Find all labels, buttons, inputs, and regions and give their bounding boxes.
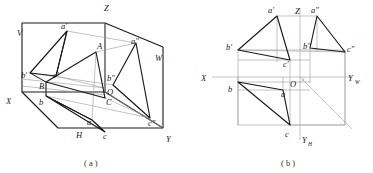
pt-c-prime-label-b: c': [283, 59, 289, 69]
pt-A-label: A: [96, 41, 103, 51]
caption-b: ( b ): [281, 158, 295, 168]
aux-bc-line: [46, 96, 150, 118]
pt-c-label-b: c: [285, 129, 289, 139]
captions-group: ( a ) ( b ): [84, 158, 295, 168]
pt-b-label-a: b: [39, 97, 43, 107]
tri-abc: [46, 96, 105, 132]
pt-a-prime-label-b: a': [268, 5, 274, 15]
plane-w-label: W: [155, 53, 163, 63]
axis-yw-subscript: W: [355, 79, 360, 85]
svg-text:Y: Y: [348, 73, 354, 83]
pt-c-label-a: c: [103, 131, 107, 141]
pt-a-label-b: a: [281, 89, 285, 99]
pt-b-label-b: b: [228, 84, 232, 94]
tri-a2b2c2: [113, 43, 150, 118]
origin-o-a-label: O: [107, 87, 113, 97]
pt-c-prime-label-a: c': [53, 70, 59, 80]
triangle-profile-projection-a: [113, 43, 150, 118]
panel-b-group: Z X O Y W Y H a' a" b' b" c' c" b a c: [200, 5, 360, 147]
triangle-profile-view-b: [310, 16, 345, 52]
axis-z-a-label: Z: [104, 3, 109, 13]
technical-drawing-svg: Z X Y V W H O a' b' c' A B C a b c a" b"…: [0, 0, 373, 173]
panel-a-group: Z X Y V W H O a' b' c' A B C a b c a" b"…: [5, 3, 172, 144]
tri-a1b1c1-b: [238, 16, 290, 60]
axis-yw-b-label: Y W: [348, 73, 360, 85]
origin-o-b-label: O: [290, 79, 296, 89]
caption-a: ( a ): [84, 158, 98, 168]
pt-a-label-a: a: [87, 117, 91, 127]
miter-45-line: [300, 77, 352, 129]
aux-C-to-c2: [105, 98, 150, 118]
proj-A-vertical: [92, 52, 96, 120]
axis-x-b-label: X: [200, 73, 207, 83]
pt-B-label: B: [39, 81, 44, 91]
axis-yh-b-label: Y H: [302, 135, 313, 147]
pt-c-dprime-label-a: c": [148, 118, 156, 128]
pt-a-prime-label-a: a': [61, 21, 67, 31]
pt-c-dprime-label-b: c": [347, 44, 355, 54]
pt-b-prime-label-b: b': [226, 42, 232, 52]
pt-b-dprime-label-b: b": [303, 41, 311, 51]
pt-b-dprime-label-a: b": [107, 73, 115, 83]
tri-a2b2c2-b: [310, 16, 345, 52]
axis-y-a-label: Y: [166, 134, 172, 144]
pt-a-dprime-label-a: a": [131, 36, 139, 46]
edge-b-a: [46, 96, 92, 120]
triangle-horizontal-projection-a: [46, 96, 105, 132]
plane-v-label: V: [17, 28, 24, 38]
v-plane-edges: [22, 23, 105, 92]
aux-horizontal-2: [22, 86, 105, 95]
axis-z-b-label: Z: [295, 6, 300, 16]
axis-yh-subscript: H: [307, 141, 313, 147]
plane-h-label: H: [75, 130, 83, 140]
reference-frame-b: [212, 8, 352, 140]
pt-b-prime-label-a: b': [21, 70, 27, 80]
diagram-root: Z X Y V W H O a' b' c' A B C a b c a" b"…: [0, 0, 373, 173]
axis-x-a-label: X: [5, 96, 12, 106]
triangle-front-view-b: [238, 16, 290, 60]
pt-a-dprime-label-b: a": [311, 5, 319, 15]
pt-C-label: C: [106, 97, 112, 107]
